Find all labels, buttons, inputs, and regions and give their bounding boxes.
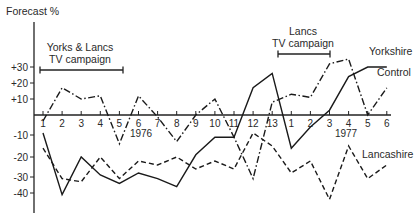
y-tick-label: +30: [11, 62, 28, 73]
campaign-annotations: Yorks & LancsTV campaignLancsTV campaign: [40, 25, 334, 74]
x-tick-label: 2: [59, 118, 65, 129]
forecast-line-chart: Forecast % +30+20+10-10-20-30-40 1234567…: [0, 0, 418, 220]
campaign-label: Lancs: [289, 25, 317, 37]
x-tick-label: 9: [193, 118, 199, 129]
series-line-lancashire: [43, 133, 387, 199]
series-label-yorkshire: Yorkshire: [369, 45, 413, 57]
x-ticks: 12345678910111213123456: [40, 111, 390, 129]
series-label-control: Control: [377, 66, 411, 78]
x-tick-label: 3: [327, 118, 333, 129]
x-tick-label: 4: [98, 118, 104, 129]
x-tick-label: 12: [248, 118, 260, 129]
x-tick-label: 3: [78, 118, 84, 129]
year-label: 1976: [130, 128, 153, 139]
campaign-label: TV campaign: [49, 53, 111, 65]
series-label-lancashire: Lancashire: [362, 148, 414, 160]
series-labels: YorkshireControlLancashire: [362, 45, 414, 160]
y-tick-label: -20: [14, 152, 29, 163]
y-axis-label: Forecast %: [6, 5, 59, 17]
y-tick-label: -10: [14, 130, 29, 141]
x-tick-label: 7: [155, 118, 161, 129]
campaign-label: TV campaign: [272, 37, 334, 49]
x-tick-label: 1: [289, 118, 295, 129]
y-tick-label: -30: [14, 172, 29, 183]
y-tick-label: +20: [11, 78, 28, 89]
x-tick-label: 6: [384, 118, 390, 129]
year-labels: 19761977: [130, 128, 358, 139]
x-tick-label: 8: [174, 118, 180, 129]
x-tick-label: 5: [365, 118, 371, 129]
y-tick-label: -40: [14, 188, 29, 199]
year-label: 1977: [335, 128, 358, 139]
campaign-label: Yorks & Lancs: [47, 41, 114, 53]
x-tick-label: 10: [209, 118, 221, 129]
y-tick-label: +10: [11, 94, 28, 105]
y-ticks: +30+20+10-10-20-30-40: [11, 62, 34, 199]
x-tick-label: 5: [117, 118, 123, 129]
